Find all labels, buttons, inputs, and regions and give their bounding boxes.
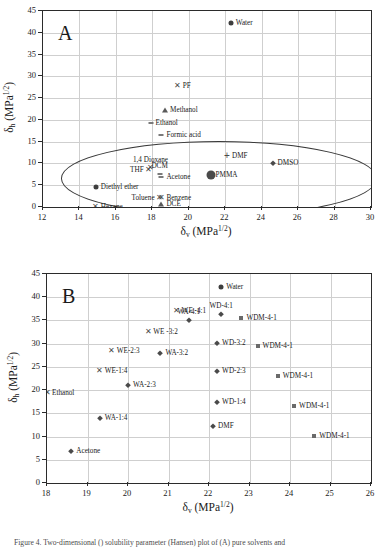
data-point-label: WDM-4-1 <box>246 314 276 322</box>
y-axis-title: δh (MPa1/2) <box>6 337 21 417</box>
data-point-label: WD-3:2 <box>222 339 246 347</box>
y-axis-tick-label: 40 <box>16 27 36 37</box>
data-point-label: Water <box>236 19 253 27</box>
y-axis-tick <box>38 32 42 33</box>
gridline-vertical <box>169 274 170 483</box>
y-axis-tick <box>42 482 46 483</box>
y-axis-tick <box>42 389 46 390</box>
y-axis-tick <box>38 119 42 120</box>
y-axis-tick <box>42 343 46 344</box>
y-axis-tick-label: 40 <box>20 291 40 301</box>
x-axis-tick <box>297 206 298 210</box>
x-axis-tick <box>330 482 331 486</box>
x-axis-tick <box>334 206 335 210</box>
gridline-horizontal <box>43 55 371 56</box>
x-axis-tick <box>370 206 371 210</box>
x-axis-tick-label: 14 <box>74 212 83 222</box>
data-point-label: Water <box>226 283 243 291</box>
y-axis-tick-label: 5 <box>16 179 36 189</box>
y-axis-tick-label: 25 <box>20 361 40 371</box>
data-point-label: WD-1:4 <box>222 398 246 406</box>
gridline-horizontal <box>47 320 371 321</box>
figure-container: Water✕PFMethanolEthanolFormic acid+DMFDM… <box>0 0 383 548</box>
y-axis-tick-label: 0 <box>20 477 40 487</box>
x-axis-tick <box>168 482 169 486</box>
x-axis-tick-label: 22 <box>220 212 229 222</box>
data-point-label: WA-2:3 <box>133 381 156 389</box>
y-axis-tick <box>42 273 46 274</box>
y-axis-tick-label: 0 <box>16 201 36 211</box>
data-point-label: WA-1:4 <box>105 414 128 422</box>
y-axis-tick-label: 35 <box>20 314 40 324</box>
x-axis-title: δv (MPa1/2) <box>180 224 231 239</box>
x-axis-tick-label: 24 <box>285 488 294 498</box>
x-axis-tick <box>261 206 262 210</box>
y-axis-tick <box>38 206 42 207</box>
x-axis-tick-label: 18 <box>42 488 51 498</box>
y-axis-tick <box>38 141 42 142</box>
x-axis-tick-label: 25 <box>325 488 334 498</box>
data-point-label: Acetone <box>76 447 100 455</box>
x-axis-tick-label: 28 <box>329 212 338 222</box>
x-axis-tick-label: 19 <box>82 488 91 498</box>
data-point-label: WDM-4-1 <box>263 342 293 350</box>
data-point-label: PF <box>183 82 191 90</box>
gridline-horizontal <box>47 390 371 391</box>
data-point-label: THF <box>130 166 144 174</box>
x-axis-tick <box>127 482 128 486</box>
x-axis-tick-label: 18 <box>147 212 156 222</box>
y-axis-tick <box>38 54 42 55</box>
y-axis-tick <box>42 459 46 460</box>
data-point-label: Diethyl ether <box>101 183 139 191</box>
gridline-horizontal <box>47 460 371 461</box>
gridline-vertical <box>250 274 251 483</box>
x-axis-tick <box>249 482 250 486</box>
x-axis-tick-label: 20 <box>184 212 193 222</box>
data-point-label: DMSO <box>278 159 299 167</box>
x-axis-tick <box>289 482 290 486</box>
data-point-label: WE-1:4 <box>105 367 128 375</box>
y-axis-tick-label: 30 <box>16 70 36 80</box>
y-axis-title: δh (MPa1/2) <box>2 67 17 147</box>
y-axis-tick <box>38 97 42 98</box>
y-axis-tick <box>38 184 42 185</box>
panel-a-plot-area: Water✕PFMethanolEthanolFormic acid+DMFDM… <box>42 10 372 208</box>
y-axis-tick-label: 25 <box>16 92 36 102</box>
x-axis-tick-label: 24 <box>256 212 265 222</box>
y-axis-tick-label: 5 <box>20 454 40 464</box>
y-axis-tick <box>42 296 46 297</box>
gridline-horizontal <box>47 413 371 414</box>
y-axis-tick-label: 15 <box>20 407 40 417</box>
x-axis-tick-label: 16 <box>111 212 120 222</box>
x-axis-tick <box>42 206 43 210</box>
x-axis-tick <box>151 206 152 210</box>
y-axis-tick-label: 45 <box>20 268 40 278</box>
data-point-label: PMMA <box>216 171 238 179</box>
x-axis-tick <box>224 206 225 210</box>
x-axis-tick-label: 23 <box>244 488 253 498</box>
x-axis-tick-label: 30 <box>366 212 375 222</box>
gridline-horizontal <box>47 344 371 345</box>
y-axis-tick-label: 10 <box>16 157 36 167</box>
data-point-label: Acetone <box>166 173 190 181</box>
x-axis-tick-label: 26 <box>293 212 302 222</box>
x-axis-tick-label: 21 <box>163 488 172 498</box>
data-point-label: WD-4:1 <box>209 302 233 310</box>
gridline-horizontal <box>43 76 371 77</box>
gridline-horizontal <box>43 120 371 121</box>
y-axis-tick-label: 20 <box>16 114 36 124</box>
data-point-label: Formic acid <box>166 131 201 139</box>
x-axis-tick <box>78 206 79 210</box>
y-axis-tick-label: 35 <box>16 49 36 59</box>
data-point-label: WDM-4-1 <box>283 372 313 380</box>
gridline-horizontal <box>47 297 371 298</box>
x-axis-tick <box>188 206 189 210</box>
x-axis-tick <box>115 206 116 210</box>
y-axis-tick <box>42 436 46 437</box>
gridline-horizontal <box>43 98 371 99</box>
y-axis-tick-label: 15 <box>16 136 36 146</box>
y-axis-tick <box>38 10 42 11</box>
data-point-label: DCM <box>151 162 167 170</box>
figure-caption: Figure 4. Two-dimensional () solubility … <box>14 538 373 548</box>
panel-a: Water✕PFMethanolEthanolFormic acid+DMFDM… <box>0 0 383 262</box>
